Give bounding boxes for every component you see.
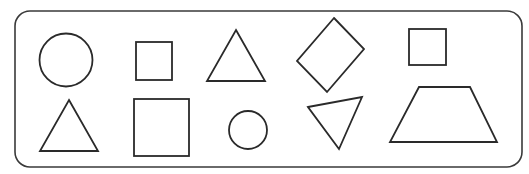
shapes-figure — [0, 0, 529, 174]
shape-triangle-up — [207, 30, 265, 81]
shape-trapezoid — [390, 87, 497, 142]
shape-square-small-2 — [409, 29, 446, 65]
top-row — [40, 18, 447, 92]
shape-triangle-up-2 — [40, 100, 98, 151]
shape-diamond — [297, 18, 364, 92]
shape-circle-small — [229, 111, 267, 149]
shape-square-large — [134, 99, 189, 156]
bottom-row — [40, 87, 497, 156]
shape-square-small — [136, 42, 172, 80]
shapes-diagram — [0, 0, 529, 174]
shape-triangle-down — [308, 97, 362, 149]
shape-circle-large — [40, 34, 93, 87]
